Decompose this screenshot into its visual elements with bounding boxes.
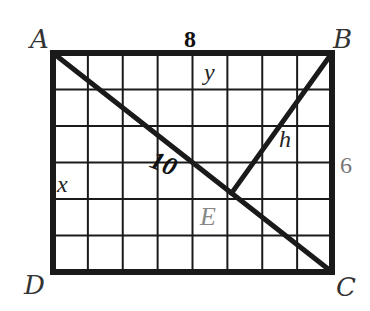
variable-label-x: x [56,171,68,197]
vertex-label-c: C [336,272,356,302]
variable-label-y: y [202,59,215,85]
vertex-label-a: A [28,24,49,54]
altitude-be [232,53,332,193]
vertex-label-d: D [23,270,45,300]
vertex-label-b: B [332,24,352,54]
rectangle-diagram: A B C D E 8 6 10 h x y [0,0,370,311]
point-label-e: E [199,202,216,231]
side-label-top: 8 [184,26,196,52]
altitude-label: h [279,126,291,152]
side-label-right: 6 [340,152,352,178]
